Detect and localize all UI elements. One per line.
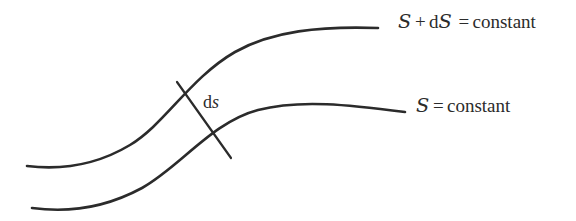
lower-label-value: constant xyxy=(447,95,510,116)
upper-label-differential-prefix: d xyxy=(429,11,439,32)
separation-label: ds xyxy=(203,93,219,111)
lower-curve-label: S=constant xyxy=(416,96,510,115)
upper-curve-label: S+dS=constant xyxy=(398,12,536,31)
upper-label-plus: + xyxy=(411,11,429,32)
upper-label-symbol: S xyxy=(398,10,411,33)
figure-container: S+dS=constant S=constant ds xyxy=(0,0,576,221)
upper-label-equals: = xyxy=(452,11,473,32)
upper-label-value: constant xyxy=(473,11,536,32)
lower-label-symbol: S xyxy=(416,94,429,117)
separation-label-symbol: s xyxy=(212,92,219,112)
upper-label-differential-symbol: S xyxy=(439,10,452,33)
lower-label-equals: = xyxy=(429,95,447,116)
separation-label-prefix: d xyxy=(203,92,212,112)
